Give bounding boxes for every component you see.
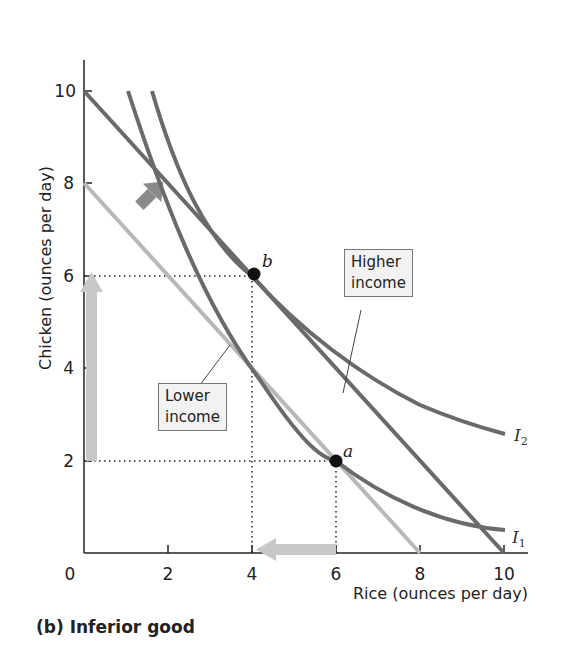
x-tick-8: 8: [415, 564, 426, 584]
y-tick-2: 2: [63, 451, 74, 471]
y-tick-8: 8: [63, 173, 74, 193]
indifference-curve-i1: [128, 91, 505, 530]
y-tick-10: 10: [54, 81, 76, 101]
i1-label-sub: 1: [519, 537, 526, 550]
y-tick-4: 4: [63, 358, 74, 378]
lower-income-text-1: Lower: [165, 386, 220, 407]
i1-label: I1: [512, 527, 526, 550]
x-axis-label: Rice (ounces per day): [353, 584, 528, 603]
i1-label-main: I: [512, 527, 519, 547]
lower-income-text-2: income: [165, 407, 220, 428]
point-a-label: a: [343, 441, 353, 461]
i2-label: I2: [514, 425, 528, 448]
higher-income-text-1: Higher: [351, 252, 406, 273]
lower-income-leader: [200, 345, 230, 385]
x-tick-2: 2: [163, 564, 174, 584]
lower-income-callout: Lower income: [158, 383, 227, 431]
y-tick-6: 6: [63, 266, 74, 286]
point-b-label: b: [262, 251, 273, 271]
i2-label-sub: 2: [521, 435, 528, 448]
x-tick-10: 10: [493, 564, 515, 584]
point-b: [248, 268, 261, 281]
rice-decrease-arrow: [256, 538, 336, 561]
y-axis-label: Chicken (ounces per day): [36, 166, 55, 370]
higher-income-text-2: income: [351, 273, 406, 294]
point-a: [330, 455, 343, 468]
i2-label-main: I: [514, 425, 521, 445]
higher-income-budget-line: [84, 91, 504, 553]
x-tick-4: 4: [247, 564, 258, 584]
figure-caption: (b) Inferior good: [36, 617, 195, 637]
x-tick-6: 6: [331, 564, 342, 584]
higher-income-callout: Higher income: [344, 249, 413, 297]
x-tick-0: 0: [65, 564, 76, 584]
higher-income-leader: [343, 310, 361, 393]
chart-canvas: 0 2 4 6 8 10 2 4 6 8 10 Rice (ounces per…: [0, 0, 564, 656]
